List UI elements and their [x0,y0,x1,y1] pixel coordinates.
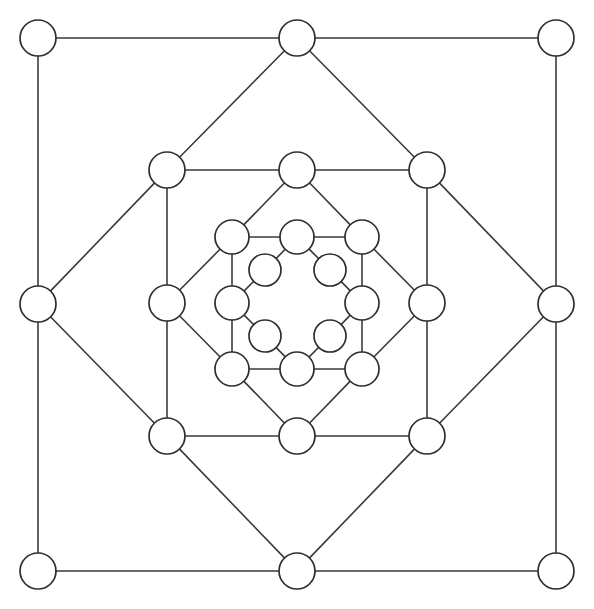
graph-node[interactable] [345,352,379,386]
graph-node[interactable] [149,285,185,321]
graph-node[interactable] [215,220,249,254]
graph-canvas [0,0,594,609]
graph-edge [50,183,155,292]
graph-edge [276,249,286,259]
graph-node[interactable] [279,152,315,188]
graph-node[interactable] [249,254,281,286]
graph-node[interactable] [280,352,314,386]
graph-node[interactable] [279,553,315,589]
graph-edge [243,381,284,424]
graph-node[interactable] [538,20,574,56]
graph-node[interactable] [279,418,315,454]
graph-edge [309,449,415,559]
graph-edge [439,183,544,292]
graph-node[interactable] [538,553,574,589]
graph-edge [276,347,286,357]
graph-node[interactable] [280,220,314,254]
graph-node[interactable] [409,152,445,188]
graph-edge [309,381,350,424]
graph-edge [374,249,415,291]
graph-node[interactable] [409,418,445,454]
graph-node[interactable] [20,286,56,322]
graph-node[interactable] [215,286,249,320]
graph-node[interactable] [149,152,185,188]
graph-edge [309,50,414,157]
graph-edge [244,281,254,291]
graph-node[interactable] [149,418,185,454]
graph-edge [341,315,351,325]
graph-edge [439,317,544,424]
graph-edge [244,315,254,325]
edge-layer [38,38,556,571]
graph-node[interactable] [279,20,315,56]
graph-node[interactable] [409,285,445,321]
graph-edge [341,281,351,291]
graph-node[interactable] [20,553,56,589]
graph-edge [179,315,220,357]
graph-figure [0,0,594,609]
graph-edge [243,183,284,226]
graph-node[interactable] [249,320,281,352]
graph-node[interactable] [314,320,346,352]
node-layer [20,20,574,589]
graph-edge [50,317,155,424]
graph-edge [179,50,284,157]
graph-edge [309,249,319,259]
graph-edge [309,183,350,226]
graph-node[interactable] [215,352,249,386]
graph-node[interactable] [314,254,346,286]
graph-edge [179,449,285,559]
graph-edge [309,347,319,357]
graph-node[interactable] [20,20,56,56]
graph-node[interactable] [345,220,379,254]
graph-edge [179,249,220,291]
graph-edge [374,315,415,357]
graph-node[interactable] [345,286,379,320]
graph-node[interactable] [538,286,574,322]
